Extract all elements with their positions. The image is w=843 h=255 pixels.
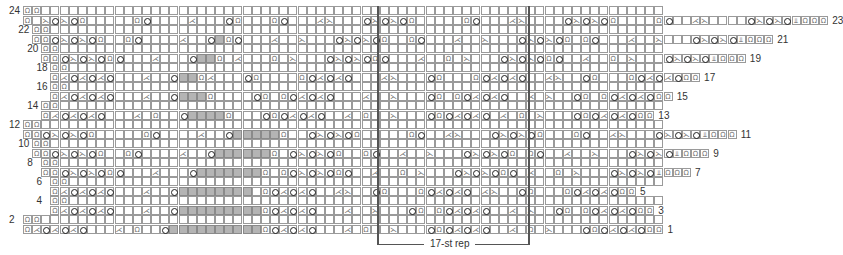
knit-cell: [389, 149, 398, 158]
k2tog-icon: ⋌: [316, 16, 325, 25]
twisted-stitch-icon: Ω: [627, 73, 636, 82]
knit-cell: [115, 139, 124, 148]
twisted-stitch-icon: Ω: [270, 149, 279, 158]
yarn-over-icon: [481, 92, 490, 101]
yarn-over-icon: [142, 16, 151, 25]
knit-cell: [599, 73, 608, 82]
knit-cell: [142, 168, 151, 177]
yarn-over-icon: [133, 35, 142, 44]
knit-cell: [572, 44, 581, 53]
knit-cell: [334, 139, 343, 148]
knit-cell: [325, 187, 334, 196]
yarn-over-icon: [60, 225, 69, 234]
knit-cell: [618, 177, 627, 186]
yarn-over-icon: [627, 149, 636, 158]
knit-cell: [142, 139, 151, 148]
yarn-over-icon: [252, 92, 261, 101]
knit-cell: [627, 120, 636, 129]
yarn-over-icon: [416, 130, 425, 139]
knit-cell: [481, 101, 490, 110]
knit-cell: [261, 54, 270, 63]
no-stitch-cell: [215, 111, 224, 120]
knit-cell: [471, 177, 480, 186]
knit-cell: [645, 25, 654, 34]
knit-cell: [599, 139, 608, 148]
knit-cell: [499, 177, 508, 186]
knit-cell: [654, 82, 663, 91]
knit-cell: [316, 101, 325, 110]
row-number-1: 1: [668, 224, 674, 235]
knit-cell: [352, 206, 361, 215]
knit-cell: [545, 130, 554, 139]
yarn-over-icon: [243, 73, 252, 82]
k2tog-icon: ⋌: [636, 92, 645, 101]
knit-cell: [78, 6, 87, 15]
yarn-over-icon: [50, 16, 59, 25]
k2tog-icon: ⋌: [316, 92, 325, 101]
no-stitch-cell: [252, 168, 261, 177]
knit-cell: [142, 101, 151, 110]
double-decrease-icon: ⫫: [700, 130, 709, 139]
knit-cell: [572, 73, 581, 82]
knit-cell: [380, 82, 389, 91]
knit-cell: [206, 215, 215, 224]
repeat-label: 17-st rep: [424, 238, 475, 249]
knit-cell: [105, 196, 114, 205]
knit-cell: [133, 158, 142, 167]
knit-cell: [737, 16, 746, 25]
ssk-icon: ⋋: [700, 35, 709, 44]
yarn-over-icon: [87, 92, 96, 101]
knit-cell: [298, 101, 307, 110]
knit-cell: [115, 35, 124, 44]
knit-cell: [325, 206, 334, 215]
knit-cell: [590, 6, 599, 15]
knit-cell: [481, 196, 490, 205]
no-stitch-cell: [197, 54, 206, 63]
knit-cell: [508, 187, 517, 196]
knit-cell: [435, 130, 444, 139]
yarn-over-icon: [782, 16, 791, 25]
knit-cell: [197, 82, 206, 91]
knit-cell: [481, 16, 490, 25]
knit-cell: [78, 177, 87, 186]
twisted-stitch-icon: Ω: [645, 225, 654, 234]
knit-cell: [298, 215, 307, 224]
knit-cell: [453, 101, 462, 110]
knit-cell: [279, 101, 288, 110]
k2tog-icon: ⋌: [96, 92, 105, 101]
knit-cell: [572, 196, 581, 205]
twisted-stitch-icon: Ω: [334, 168, 343, 177]
twisted-stitch-icon: Ω: [581, 92, 590, 101]
twisted-stitch-icon: Ω: [362, 225, 371, 234]
knit-cell: [96, 130, 105, 139]
knit-cell: [316, 25, 325, 34]
knit-cell: [142, 111, 151, 120]
knit-cell: [517, 120, 526, 129]
knit-cell: [471, 130, 480, 139]
k2tog-icon: ⋌: [471, 111, 480, 120]
knit-cell: [627, 25, 636, 34]
knit-cell: [224, 215, 233, 224]
knit-cell: [343, 149, 352, 158]
k2tog-icon: ⋌: [599, 206, 608, 215]
knit-cell: [224, 120, 233, 129]
knit-cell: [87, 6, 96, 15]
knit-cell: [352, 16, 361, 25]
knit-cell: [481, 130, 490, 139]
yarn-over-icon: [407, 206, 416, 215]
knit-cell: [179, 25, 188, 34]
knit-cell: [554, 111, 563, 120]
yarn-over-icon: [581, 73, 590, 82]
knit-cell: [325, 120, 334, 129]
yarn-over-icon: [307, 73, 316, 82]
knit-cell: [444, 158, 453, 167]
knit-cell: [215, 6, 224, 15]
knit-cell: [453, 16, 462, 25]
knit-cell: [389, 6, 398, 15]
knit-cell: [151, 25, 160, 34]
yarn-over-icon: [233, 35, 242, 44]
knit-cell: [499, 206, 508, 215]
ssk-icon: ⋋: [773, 16, 782, 25]
row-number-9: 9: [713, 148, 719, 159]
knit-cell: [343, 82, 352, 91]
